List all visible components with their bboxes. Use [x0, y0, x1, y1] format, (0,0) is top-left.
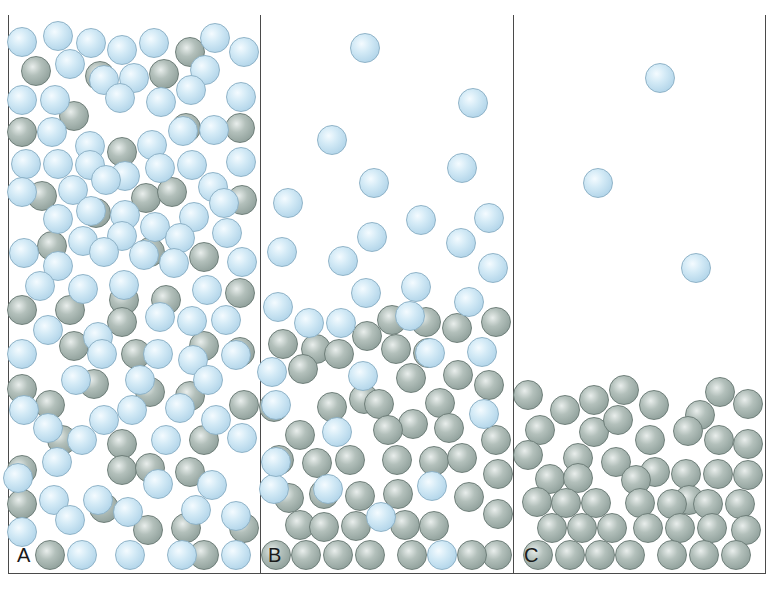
light-particle: [9, 238, 39, 268]
light-particle: [176, 75, 206, 105]
light-particle: [313, 474, 343, 504]
light-particle: [76, 196, 106, 226]
light-particle: [145, 302, 175, 332]
dark-particle: [434, 413, 464, 443]
dark-particle: [697, 513, 727, 543]
light-particle: [317, 125, 347, 155]
dark-particle: [355, 540, 385, 570]
dark-particle: [474, 370, 504, 400]
light-particle: [267, 237, 297, 267]
light-particle: [168, 116, 198, 146]
bottom-border: [8, 573, 766, 574]
dark-particle: [513, 380, 543, 410]
light-particle: [165, 393, 195, 423]
light-particle: [107, 35, 137, 65]
panel-label-a: A: [17, 545, 30, 565]
dark-particle: [481, 425, 511, 455]
light-particle: [348, 361, 378, 391]
dark-particle: [396, 363, 426, 393]
light-particle: [37, 117, 67, 147]
dark-particle: [454, 482, 484, 512]
light-particle: [11, 149, 41, 179]
light-particle: [55, 49, 85, 79]
light-particle: [467, 337, 497, 367]
light-particle: [221, 540, 251, 570]
light-particle: [211, 305, 241, 335]
dark-particle: [225, 113, 255, 143]
light-particle: [145, 153, 175, 183]
dark-particle: [481, 307, 511, 337]
dark-particle: [665, 513, 695, 543]
dark-particle: [7, 489, 37, 519]
light-particle: [139, 28, 169, 58]
light-particle: [326, 308, 356, 338]
dark-particle: [373, 415, 403, 445]
light-particle: [681, 253, 711, 283]
light-particle: [105, 83, 135, 113]
panel-label-c: C: [524, 545, 538, 565]
light-particle: [417, 471, 447, 501]
light-particle: [259, 474, 289, 504]
dark-particle: [639, 390, 669, 420]
dark-particle: [225, 278, 255, 308]
light-particle: [40, 85, 70, 115]
dark-particle: [657, 540, 687, 570]
dark-particle: [324, 339, 354, 369]
light-particle: [113, 497, 143, 527]
dark-particle: [513, 440, 543, 470]
dark-particle: [442, 313, 472, 343]
light-particle: [67, 540, 97, 570]
light-particle: [143, 339, 173, 369]
light-particle: [159, 248, 189, 278]
light-particle: [454, 287, 484, 317]
light-particle: [125, 365, 155, 395]
light-particle: [83, 485, 113, 515]
light-particle: [366, 502, 396, 532]
light-particle: [193, 365, 223, 395]
light-particle: [177, 306, 207, 336]
light-particle: [33, 315, 63, 345]
light-particle: [406, 205, 436, 235]
dark-particle: [288, 354, 318, 384]
dark-particle: [107, 455, 137, 485]
dark-particle: [633, 513, 663, 543]
dark-particle: [309, 512, 339, 542]
light-particle: [91, 165, 121, 195]
dark-particle: [447, 443, 477, 473]
dark-particle: [579, 385, 609, 415]
light-particle: [192, 275, 222, 305]
dark-particle: [733, 429, 763, 459]
dark-particle: [585, 540, 615, 570]
dark-particle: [149, 59, 179, 89]
light-particle: [117, 395, 147, 425]
light-particle: [401, 272, 431, 302]
dark-particle: [398, 409, 428, 439]
dark-particle: [733, 460, 763, 490]
dark-particle: [189, 242, 219, 272]
light-particle: [427, 540, 457, 570]
dark-particle: [673, 416, 703, 446]
light-particle: [7, 339, 37, 369]
light-particle: [43, 21, 73, 51]
light-particle: [167, 540, 197, 570]
dark-particle: [603, 405, 633, 435]
light-particle: [89, 237, 119, 267]
light-particle: [257, 357, 287, 387]
light-particle: [181, 495, 211, 525]
dark-particle: [609, 375, 639, 405]
dark-particle: [483, 499, 513, 529]
divider-b-c: [513, 15, 514, 573]
light-particle: [61, 365, 91, 395]
light-particle: [328, 246, 358, 276]
light-particle: [7, 177, 37, 207]
light-particle: [143, 469, 173, 499]
light-particle: [221, 340, 251, 370]
light-particle: [151, 425, 181, 455]
dark-particle: [704, 425, 734, 455]
light-particle: [261, 390, 291, 420]
light-particle: [209, 188, 239, 218]
light-particle: [42, 447, 72, 477]
light-particle: [395, 301, 425, 331]
light-particle: [109, 270, 139, 300]
light-particle: [350, 33, 380, 63]
